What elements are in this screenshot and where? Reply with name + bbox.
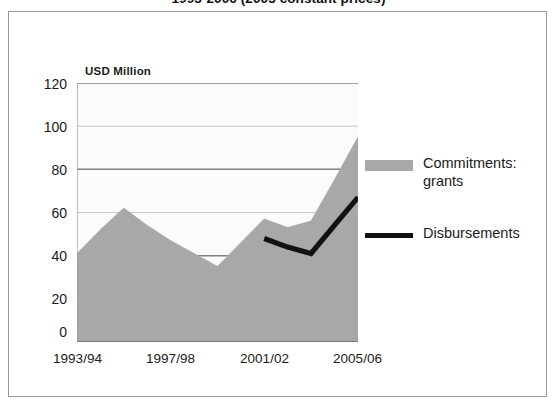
- y-axis-tick-60: 60: [21, 205, 67, 221]
- plot-area: [77, 83, 358, 342]
- x-axis-tick-1997-98: 1997/98: [128, 351, 213, 366]
- legend-swatch-line-icon: [365, 233, 413, 238]
- x-axis-tick-1993-94: 1993/94: [35, 351, 120, 366]
- legend-item-commitments: Commitments: grants: [365, 154, 550, 190]
- x-axis-tick-2001-02: 2001/02: [222, 351, 307, 366]
- chart-legend: Commitments: grants Disbursements: [365, 154, 550, 276]
- x-axis-tick-2005-06: 2005/06: [315, 351, 400, 366]
- y-axis-tick-20: 20: [21, 291, 67, 307]
- y-axis-tick-100: 100: [21, 119, 67, 135]
- legend-item-disbursements: Disbursements: [365, 224, 550, 242]
- y-axis-tick-0: 0: [21, 324, 67, 340]
- legend-label-disbursements: Disbursements: [423, 224, 520, 242]
- y-axis-tick-80: 80: [21, 162, 67, 178]
- y-axis-tick-40: 40: [21, 248, 67, 264]
- legend-label-commitments: Commitments: grants: [423, 154, 550, 190]
- axis-unit-label: USD Million: [85, 65, 151, 77]
- chart-frame: USD Million 120 100 80 60 40 20 0: [8, 11, 547, 397]
- legend-swatch-area-icon: [365, 160, 413, 171]
- y-axis-tick-120: 120: [21, 76, 67, 92]
- page-title: 1993-2006 (2005 constant prices): [0, 0, 557, 6]
- chart-svg: [77, 83, 358, 342]
